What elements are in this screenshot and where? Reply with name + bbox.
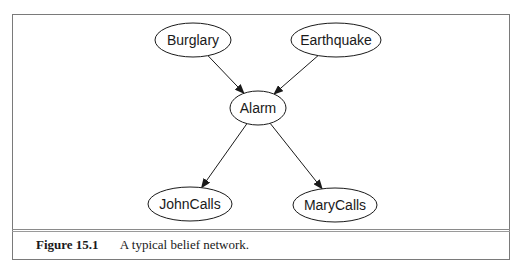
figure-label: Figure 15.1 [36, 237, 99, 252]
edge-earthquake-to-alarm [274, 56, 318, 94]
node-johncalls: JohnCalls [148, 187, 232, 221]
edge-alarm-to-johncalls [202, 124, 247, 188]
nodes: BurglaryEarthquakeAlarmJohnCallsMaryCall… [148, 23, 381, 222]
node-burglary: Burglary [155, 23, 231, 57]
caption-separator-secondary [12, 231, 510, 232]
edge-burglary-to-alarm [208, 56, 244, 94]
caption-text: A typical belief network. [120, 237, 249, 252]
figure-caption: Figure 15.1 A typical belief network. [36, 237, 249, 253]
node-marycalls: MaryCalls [293, 188, 377, 222]
node-label: Alarm [240, 100, 277, 116]
node-label: Burglary [167, 32, 219, 48]
node-alarm: Alarm [230, 91, 286, 125]
node-label: Earthquake [300, 32, 372, 48]
node-label: JohnCalls [159, 196, 220, 212]
node-label: MaryCalls [304, 197, 366, 213]
node-earthquake: Earthquake [291, 23, 381, 57]
belief-network-diagram: BurglaryEarthquakeAlarmJohnCallsMaryCall… [0, 0, 519, 268]
caption-separator [12, 229, 510, 230]
edge-alarm-to-marycalls [270, 123, 322, 189]
